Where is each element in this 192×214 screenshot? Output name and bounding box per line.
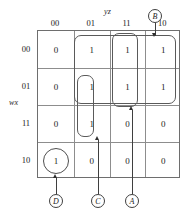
- callout-d: D: [49, 194, 63, 208]
- callout-d-label: D: [53, 197, 59, 206]
- kmap-cell-r2c3: 0: [145, 105, 181, 142]
- arrow-d: [53, 174, 57, 178]
- row-header-10: 10: [17, 155, 35, 165]
- row-header-00: 00: [17, 44, 35, 54]
- kmap-diagram: yz wx 00 01 11 10 00 01 11 10 0 1 1 1 0 …: [0, 0, 192, 214]
- callout-c: C: [91, 194, 105, 208]
- row-header-01: 01: [17, 81, 35, 91]
- kmap-cell-r1c0: 0: [38, 68, 74, 105]
- group-outline-c: [77, 75, 94, 137]
- kmap-cell-r2c0: 0: [38, 105, 74, 142]
- callout-a: A: [125, 194, 139, 208]
- column-header-11: 11: [109, 18, 145, 28]
- arrow-c: [95, 136, 99, 140]
- callout-b: B: [148, 9, 162, 23]
- kmap-cell-r3c3: 0: [145, 142, 181, 179]
- callout-a-label: A: [130, 197, 135, 206]
- callout-b-label: B: [153, 12, 158, 21]
- leader-line-c: [98, 140, 99, 194]
- kmap-cell-r2c2: 0: [110, 105, 146, 142]
- group-outline-a: [112, 33, 138, 107]
- leader-line-a: [132, 110, 133, 194]
- leader-line-d: [56, 178, 57, 194]
- row-variable-label: wx: [9, 98, 18, 107]
- kmap-cell-r3c1: 0: [74, 142, 110, 179]
- callout-c-label: C: [95, 197, 100, 206]
- row-header-11: 11: [17, 118, 35, 128]
- kmap-cell-r3c2: 0: [110, 142, 146, 179]
- column-header-01: 01: [73, 18, 109, 28]
- column-header-00: 00: [37, 18, 73, 28]
- kmap-cell-r0c0: 0: [38, 31, 74, 68]
- column-variable-label: yz: [104, 7, 111, 16]
- arrow-b: [152, 33, 156, 37]
- arrow-a: [129, 106, 133, 110]
- group-outline-d: [43, 148, 69, 174]
